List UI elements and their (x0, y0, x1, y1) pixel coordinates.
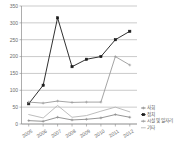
legend-group: 사회정치시설 및 일자리기타 (141, 104, 173, 131)
data-point-marker (56, 17, 58, 19)
data-point-marker (42, 84, 44, 86)
data-point-marker (56, 116, 59, 119)
gridlines-group (22, 6, 138, 124)
legend-label: 기타 (147, 124, 156, 131)
data-point-marker (27, 119, 30, 122)
ytick-label: 100 (10, 87, 19, 93)
data-point-marker (85, 101, 88, 104)
legend-label: 시설 및 일자리 (147, 117, 174, 124)
xtick-label: 2011 (108, 128, 120, 139)
legend-item-시설 및 일자리[interactable]: 시설 및 일자리 (141, 117, 173, 124)
data-point-marker (71, 66, 73, 68)
data-point-marker (142, 120, 145, 123)
series-정치 (28, 17, 131, 105)
xtick-labels-group: 20052006200720082009201020112012 (21, 128, 135, 139)
data-point-marker (85, 58, 87, 60)
chart-canvas: 050100150200250300350 200520062007200820… (0, 0, 185, 150)
legend-label: 사회 (147, 104, 155, 111)
ytick-label: 0 (15, 121, 18, 127)
data-point-marker (142, 114, 144, 116)
data-point-marker (114, 113, 117, 116)
legend-label: 정치 (147, 111, 155, 118)
series-line (29, 115, 130, 122)
xtick-label: 2010 (93, 128, 106, 139)
xtick-label: 2006 (35, 128, 48, 139)
data-point-marker (56, 100, 59, 103)
data-point-marker (100, 117, 103, 120)
data-point-marker (128, 116, 131, 119)
data-point-marker (100, 101, 103, 104)
xtick-label: 2009 (79, 128, 92, 139)
ytick-label: 350 (10, 3, 19, 9)
xtick-label: 2005 (21, 128, 34, 139)
data-point-marker (71, 101, 74, 104)
line-chart-figure: 050100150200250300350 200520062007200820… (0, 0, 185, 150)
xtick-label: 2008 (64, 128, 77, 139)
data-point-marker (71, 119, 74, 122)
ytick-labels-group: 050100150200250300350 (10, 3, 19, 127)
data-point-marker (100, 55, 102, 57)
ytick-label: 250 (10, 37, 19, 43)
xtick-label: 2012 (122, 128, 135, 139)
data-point-marker (129, 30, 131, 32)
ytick-label: 50 (12, 104, 18, 110)
data-point-marker (142, 107, 145, 110)
ytick-label: 200 (10, 53, 19, 59)
data-point-marker (42, 120, 45, 123)
legend-item-정치[interactable]: 정치 (141, 111, 155, 118)
series-group (27, 17, 131, 123)
xtick-label: 2007 (50, 128, 63, 139)
data-point-marker (85, 118, 88, 121)
legend-item-기타[interactable]: 기타 (141, 124, 156, 131)
ytick-label: 150 (10, 70, 19, 76)
data-point-marker (114, 39, 116, 41)
series-line (29, 18, 130, 104)
legend-item-사회[interactable]: 사회 (141, 104, 155, 111)
ytick-label: 300 (10, 20, 19, 26)
data-point-marker (42, 102, 45, 105)
